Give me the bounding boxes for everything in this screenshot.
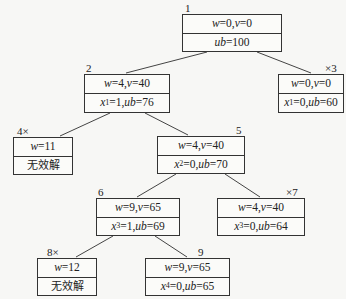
edge-5-7 <box>225 174 260 197</box>
edge-2-5 <box>145 113 188 135</box>
node-bound-row: x3=0, ub=64 <box>218 217 304 236</box>
tree-node-8: w=12 无效解 <box>37 258 97 296</box>
node-bound-row: x1=1, ub=76 <box>85 93 169 112</box>
node-state-row: w=4, v=40 <box>85 75 169 93</box>
node-bound-row: x4=0, ub=65 <box>146 277 229 296</box>
edge-5-6 <box>137 174 176 197</box>
node-label-7-pruned: ×7 <box>286 187 298 198</box>
edge-6-9 <box>155 236 187 257</box>
node-bound-row: x1=0, ub=60 <box>279 93 343 112</box>
node-state-row: w=4, v=40 <box>158 137 244 155</box>
node-bound-row: x3=1, ub=69 <box>97 217 179 236</box>
node-label-3-pruned: ×3 <box>325 63 337 74</box>
edge-2-4 <box>60 113 110 136</box>
tree-node-1: w=0, v=0 ub=100 <box>182 14 282 52</box>
node-label-8-pruned: 8× <box>47 247 59 258</box>
node-state-row: w=0, v=0 <box>279 75 343 93</box>
node-label-4-pruned: 4× <box>17 126 29 137</box>
node-state-row: w=11 <box>14 138 72 156</box>
tree-node-3: w=0, v=0 x1=0, ub=60 <box>278 74 344 113</box>
node-invalid-row: 无效解 <box>14 156 72 175</box>
node-invalid-row: 无效解 <box>38 277 96 296</box>
tree-node-4: w=11 无效解 <box>13 137 73 175</box>
node-state-row: w=12 <box>38 259 96 277</box>
tree-node-7: w=4, v=40 x3=0, ub=64 <box>217 198 305 236</box>
node-state-row: w=9, v=65 <box>97 199 179 217</box>
node-label-6: 6 <box>98 187 104 198</box>
edge-1-3 <box>257 52 311 73</box>
node-label-2: 2 <box>86 63 92 74</box>
node-bound-row: ub=100 <box>183 33 281 52</box>
tree-node-6: w=9, v=65 x3=1, ub=69 <box>96 198 180 236</box>
node-bound-row: x2=0, ub=70 <box>158 155 244 174</box>
node-state-row: w=9, v=65 <box>146 259 229 277</box>
node-label-1: 1 <box>185 3 191 14</box>
tree-node-9: w=9, v=65 x4=0, ub=65 <box>145 258 230 296</box>
node-state-row: w=0, v=0 <box>183 15 281 33</box>
node-label-9: 9 <box>198 247 204 258</box>
node-label-5: 5 <box>236 125 242 136</box>
tree-node-5: w=4, v=40 x2=0, ub=70 <box>157 136 245 174</box>
edge-6-8 <box>76 236 113 257</box>
tree-node-2: w=4, v=40 x1=1, ub=76 <box>84 74 170 113</box>
node-state-row: w=4, v=40 <box>218 199 304 217</box>
edge-1-2 <box>126 52 207 73</box>
